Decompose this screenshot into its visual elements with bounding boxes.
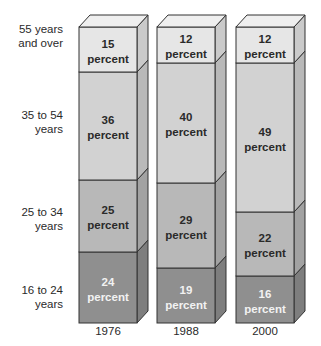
segment-55-years-and-over: 15percent [79, 15, 148, 72]
segment-35-to-54-years: 36percent [79, 60, 148, 180]
stacked-bar-chart: 24percent25percent36percent15percent19pe… [0, 0, 321, 346]
segment-value: 19 [180, 284, 193, 296]
segment-value: 22 [259, 232, 272, 244]
segment-25-to-34-years: 25percent [79, 168, 148, 252]
segment-value: 24 [102, 276, 115, 288]
segment-35-to-54-years: 49percent [236, 51, 305, 212]
segment-value: 12 [180, 33, 193, 45]
segment-value: 49 [259, 126, 272, 138]
row-label-35-54: 35 to 54 years [21, 108, 63, 136]
bar-1976: 24percent25percent36percent15percent [79, 15, 148, 323]
bar-1988: 19percent29percent40percent12percent [157, 15, 226, 323]
segment-35-to-54-years: 40percent [157, 51, 226, 183]
segment-25-to-34-years: 29percent [157, 171, 226, 268]
row-label-25-34: 25 to 34 years [21, 205, 63, 233]
segment-unit: percent [87, 291, 129, 303]
segment-unit: percent [165, 229, 207, 241]
segment-unit: percent [87, 129, 129, 141]
segment-unit: percent [165, 299, 207, 311]
segment-value: 16 [259, 288, 272, 300]
segment-value: 36 [102, 114, 115, 126]
segment-value: 25 [102, 204, 115, 216]
segment-unit: percent [244, 141, 286, 153]
segment-unit: percent [244, 48, 286, 60]
segment-value: 15 [102, 38, 115, 50]
segment-unit: percent [87, 219, 129, 231]
segment-value: 40 [180, 111, 193, 123]
segment-value: 12 [259, 33, 272, 45]
segment-55-years-and-over: 12percent [157, 15, 226, 63]
segment-unit: percent [87, 53, 129, 65]
segment-unit: percent [244, 303, 286, 315]
year-label-2000: 2000 [236, 325, 294, 337]
row-label-16-24: 16 to 24 years [21, 283, 63, 311]
row-label-55-over: 55 years and over [18, 22, 63, 50]
segment-55-years-and-over: 12percent [236, 15, 305, 63]
segment-unit: percent [165, 48, 207, 60]
segment-value: 29 [180, 214, 193, 226]
bar-2000: 16percent22percent49percent12percent [236, 15, 305, 323]
year-label-1988: 1988 [157, 325, 215, 337]
year-label-1976: 1976 [79, 325, 137, 337]
segment-unit: percent [165, 126, 207, 138]
segment-unit: percent [244, 247, 286, 259]
